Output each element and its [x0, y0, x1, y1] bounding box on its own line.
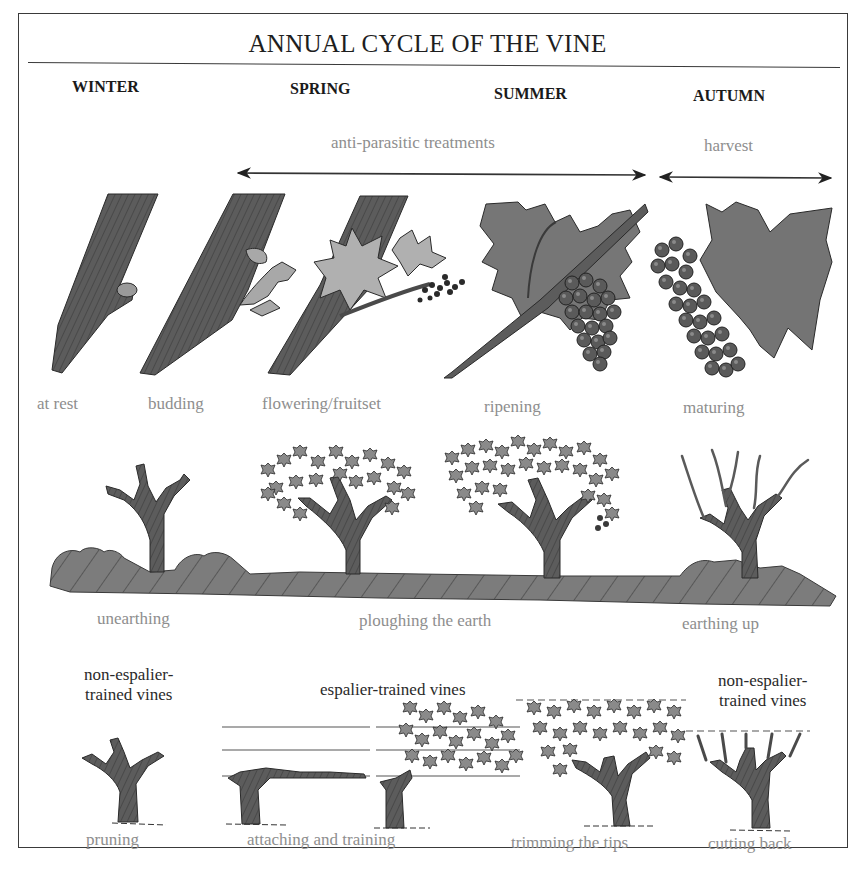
cane-ripening-illustration: [444, 202, 648, 378]
label-trimming-the-tips: trimming the tips: [511, 833, 628, 853]
label-ripening: ripening: [484, 397, 541, 417]
label-non-espalier-right-line2: trained vines: [718, 691, 807, 711]
vine-cycle-illustration: [0, 0, 855, 871]
vine-ploughing-summer-illustration: [445, 435, 619, 578]
label-non-espalier-left: non-espalier- trained vines: [84, 665, 173, 705]
vine-pruning-illustration: [82, 738, 166, 825]
label-flowering-fruitset: flowering/fruitset: [262, 394, 381, 414]
cane-flowering-illustration: [268, 196, 465, 375]
label-non-espalier-right-line1: non-espalier-: [718, 671, 807, 691]
harvest-arrow: [660, 177, 831, 178]
soil-band: [50, 548, 836, 606]
vine-cutting-back-illustration: [686, 731, 810, 831]
cane-maturing-illustration: [651, 202, 832, 377]
label-at-rest: at rest: [37, 394, 78, 414]
label-budding: budding: [148, 394, 204, 414]
treatments-arrow: [238, 173, 645, 175]
label-pruning: pruning: [86, 830, 139, 850]
label-attaching-and-training: attaching and training: [247, 830, 395, 850]
cane-at-rest-illustration: [52, 194, 158, 373]
label-non-espalier-left-line2: trained vines: [84, 685, 173, 705]
vine-earthing-up-illustration: [682, 450, 808, 578]
label-cutting-back: cutting back: [708, 834, 792, 854]
vine-ploughing-spring-illustration: [261, 445, 415, 574]
vine-trimming-illustration: [516, 699, 686, 826]
label-non-espalier-right: non-espalier- trained vines: [718, 671, 807, 711]
label-earthing-up: earthing up: [682, 614, 759, 634]
label-unearthing: unearthing: [97, 609, 170, 629]
vine-attaching-illustration: [226, 768, 366, 825]
vine-training-illustration: [374, 701, 523, 828]
label-maturing: maturing: [683, 398, 744, 418]
cane-budding-illustration: [140, 194, 296, 375]
label-espalier-trained-vines: espalier-trained vines: [320, 680, 466, 700]
label-ploughing-the-earth: ploughing the earth: [359, 611, 491, 631]
label-non-espalier-left-line1: non-espalier-: [84, 665, 173, 685]
